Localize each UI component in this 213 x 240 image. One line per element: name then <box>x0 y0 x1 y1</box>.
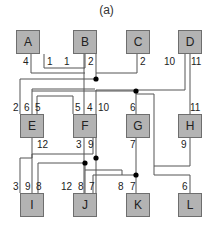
pin-label: 7 <box>130 140 136 150</box>
pin-label: 11 <box>190 103 200 113</box>
pin-label: 4 <box>87 103 93 113</box>
pin-label: 6 <box>182 182 188 192</box>
pin-label: 2 <box>140 57 146 67</box>
pin-label: 10 <box>98 103 109 113</box>
pin-label: 3 <box>13 182 19 192</box>
component-box-k: K <box>126 193 150 217</box>
pin-label: 12 <box>37 140 48 150</box>
wire <box>96 54 137 73</box>
junction-dot <box>133 172 138 177</box>
pin-label: 2 <box>88 57 94 67</box>
pin-label: 3 <box>76 140 82 150</box>
pin-label: 8 <box>78 182 84 192</box>
wire <box>37 96 73 114</box>
pin-label: 1 <box>64 57 70 67</box>
component-box-h: H <box>178 114 202 138</box>
pin-label: 7 <box>130 182 136 192</box>
pin-label: 1 <box>47 57 53 67</box>
pin-label: 8 <box>36 182 42 192</box>
pin-label: 9 <box>181 140 187 150</box>
component-box-e: E <box>20 114 44 138</box>
wire <box>32 89 95 114</box>
pin-label: 11 <box>191 57 201 67</box>
pin-label: 6 <box>130 103 136 113</box>
pin-label: 5 <box>35 103 41 113</box>
component-box-g: G <box>126 114 150 138</box>
component-box-l: L <box>178 193 202 217</box>
junction-dot <box>82 160 87 165</box>
component-box-f: F <box>73 114 97 138</box>
pin-label: 8 <box>118 182 124 192</box>
component-box-c: C <box>126 30 150 54</box>
component-box-j: J <box>73 193 97 217</box>
pin-label: 7 <box>89 182 95 192</box>
component-box-i: I <box>20 193 44 217</box>
component-box-b: B <box>73 30 97 54</box>
pin-label: 6 <box>24 103 30 113</box>
pin-label: 9 <box>25 182 31 192</box>
pin-label: 5 <box>75 103 81 113</box>
component-box-a: A <box>16 30 40 54</box>
junction-dot <box>93 76 98 81</box>
junction-dot <box>93 155 98 160</box>
wire <box>31 54 85 73</box>
component-box-d: D <box>178 30 202 54</box>
pin-label: 2 <box>13 103 19 113</box>
pin-label: 10 <box>164 57 175 67</box>
junction-dot <box>133 88 138 93</box>
wire <box>85 170 122 175</box>
pin-label: 12 <box>61 182 72 192</box>
pin-label: 4 <box>23 57 29 67</box>
pin-label: 9 <box>88 140 94 150</box>
